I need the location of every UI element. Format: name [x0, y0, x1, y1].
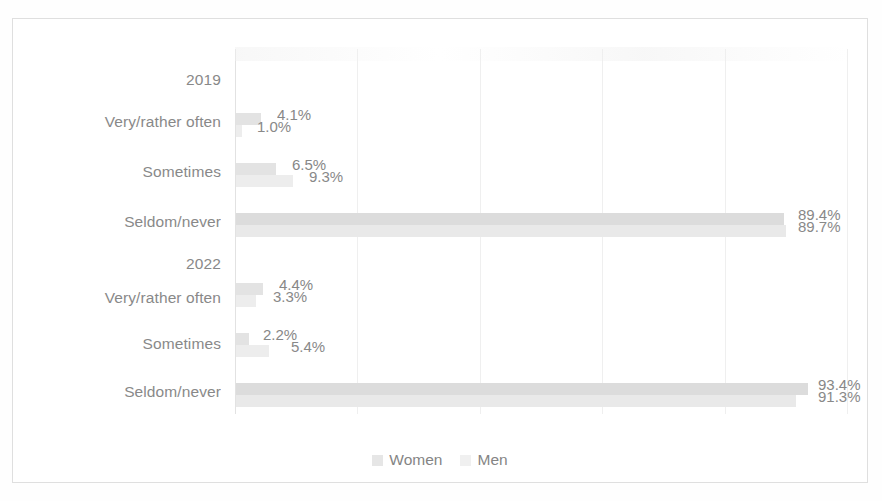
chart-legend: Women Men [13, 451, 867, 469]
axis-label-2019-very-rather-often: Very/rather often [105, 113, 221, 131]
bar-men-2022-seldom-never [236, 395, 796, 407]
bar-men-2022-sometimes [236, 345, 269, 357]
axis-label-2019-seldom-never: Seldom/never [124, 213, 221, 231]
label-men-2022-sometimes: 5.4% [291, 338, 325, 355]
legend-label-women: Women [389, 451, 442, 469]
legend-item-men[interactable]: Men [460, 451, 507, 469]
label-men-2022-very-rather-often: 3.3% [273, 288, 307, 305]
axis-label-group-2019: 2019 [186, 71, 221, 89]
category-axis: 2019 Very/rather often Sometimes Seldom/… [33, 49, 229, 414]
bar-men-2019-sometimes [236, 175, 293, 187]
label-men-2019-very-rather-often: 1.0% [257, 118, 291, 135]
axis-label-2019-sometimes: Sometimes [143, 163, 221, 181]
bar-women-2022-sometimes [236, 333, 249, 345]
bar-women-2019-seldom-never [236, 213, 784, 225]
axis-label-2022-sometimes: Sometimes [143, 335, 221, 353]
legend-label-men: Men [477, 451, 507, 469]
bar-men-2019-very-rather-often [236, 125, 242, 137]
chart-frame: 4.1% 1.0% 6.5% 9.3% 89.4% 89.7% 4.4% 3.3… [12, 18, 868, 483]
axis-label-group-2022: 2022 [186, 255, 221, 273]
chart-screenshot: 4.1% 1.0% 6.5% 9.3% 89.4% 89.7% 4.4% 3.3… [0, 0, 882, 501]
bar-women-2022-seldom-never [236, 383, 808, 395]
bar-women-2022-very-rather-often [236, 283, 263, 295]
label-men-2019-sometimes: 9.3% [309, 168, 343, 185]
plot-area: 4.1% 1.0% 6.5% 9.3% 89.4% 89.7% 4.4% 3.3… [235, 49, 848, 414]
axis-label-2022-seldom-never: Seldom/never [124, 383, 221, 401]
legend-swatch-men-icon [460, 455, 471, 466]
bar-women-2019-sometimes [236, 163, 276, 175]
label-men-2022-seldom-never: 91.3% [818, 388, 861, 405]
bar-men-2019-seldom-never [236, 225, 786, 237]
bar-men-2022-very-rather-often [236, 295, 256, 307]
axis-label-2022-very-rather-often: Very/rather often [105, 289, 221, 307]
gridline-100 [847, 49, 848, 414]
label-men-2019-seldom-never: 89.7% [798, 218, 841, 235]
scan-artifact [235, 47, 848, 61]
legend-swatch-women-icon [372, 455, 383, 466]
legend-item-women[interactable]: Women [372, 451, 442, 469]
